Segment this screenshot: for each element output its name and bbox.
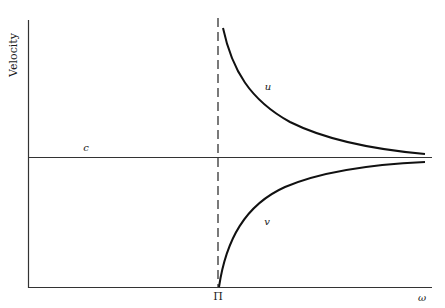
velocity-diagram: Velocity c u v Π ω: [0, 0, 445, 308]
v-label: v: [264, 216, 270, 227]
c-label: c: [83, 142, 89, 153]
v-curve: [219, 162, 425, 287]
u-label: u: [265, 81, 271, 92]
y-axis-label: Velocity: [7, 32, 20, 78]
x-axis-label: ω: [418, 292, 426, 303]
asymptote-label: Π: [213, 290, 223, 303]
u-curve: [223, 28, 425, 154]
